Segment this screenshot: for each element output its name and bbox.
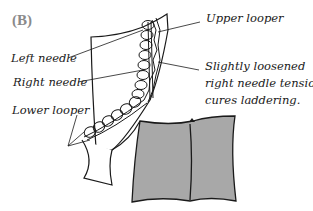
grey-fabric-piece [132,116,236,202]
note-line-3: cures laddering. [205,94,300,107]
label-upper-looper: Upper looper [206,12,284,25]
leader-note [158,62,199,70]
leader-lower-looper [68,115,90,146]
label-lower-looper: Lower looper [12,104,90,117]
seam-knot [189,118,195,122]
note-line-2: right needle tension [205,77,313,90]
label-right-needle: Right needle [13,76,87,89]
note-line-1: Slightly loosened [205,60,305,73]
label-left-needle: Left needle [11,52,77,65]
